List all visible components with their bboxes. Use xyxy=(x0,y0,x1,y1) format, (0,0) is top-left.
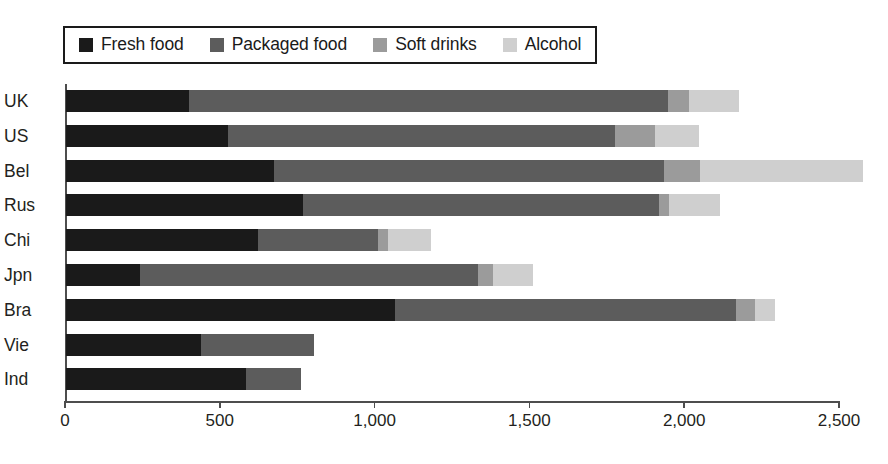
stacked-bar[interactable] xyxy=(66,264,533,286)
legend-item-label: Alcohol xyxy=(525,36,582,54)
legend-item-alcohol[interactable]: Alcohol xyxy=(503,36,582,54)
bar-row: Ind xyxy=(0,364,888,394)
bar-segment-packaged-food[interactable] xyxy=(140,264,478,286)
x-axis-tick-label: 1,000 xyxy=(353,411,396,431)
x-axis-tick-label: 0 xyxy=(60,411,69,431)
bar-segment-packaged-food[interactable] xyxy=(395,299,736,321)
stacked-bar[interactable] xyxy=(66,334,314,356)
bar-segment-packaged-food[interactable] xyxy=(189,90,668,112)
bar-row: Chi xyxy=(0,225,888,255)
legend-item-label: Packaged food xyxy=(232,36,347,54)
category-label-us: US xyxy=(4,125,74,146)
x-axis-tick-label: 2,500 xyxy=(818,411,861,431)
bar-segment-fresh-food[interactable] xyxy=(66,368,246,390)
stacked-bar[interactable] xyxy=(66,368,301,390)
chart-legend: Fresh foodPackaged foodSoft drinksAlcoho… xyxy=(63,26,597,64)
bar-segment-soft-drinks[interactable] xyxy=(736,299,755,321)
bar-row: Bra xyxy=(0,295,888,325)
stacked-bar[interactable] xyxy=(66,229,431,251)
bar-segment-alcohol[interactable] xyxy=(655,125,699,147)
legend-item-soft-drinks[interactable]: Soft drinks xyxy=(373,36,477,54)
bar-segment-alcohol[interactable] xyxy=(493,264,533,286)
bar-segment-soft-drinks[interactable] xyxy=(668,90,688,112)
bar-segment-fresh-food[interactable] xyxy=(66,334,201,356)
legend-item-packaged-food[interactable]: Packaged food xyxy=(210,36,347,54)
bar-segment-fresh-food[interactable] xyxy=(66,299,395,321)
bar-segment-alcohol[interactable] xyxy=(669,194,720,216)
bar-segment-alcohol[interactable] xyxy=(689,90,739,112)
category-label-bra: Bra xyxy=(4,299,74,320)
x-axis-tick xyxy=(64,401,66,408)
bar-segment-fresh-food[interactable] xyxy=(66,160,274,182)
bar-row: Bel xyxy=(0,156,888,186)
bar-segment-soft-drinks[interactable] xyxy=(378,229,388,251)
bar-segment-soft-drinks[interactable] xyxy=(664,160,700,182)
stacked-bar[interactable] xyxy=(66,299,775,321)
category-label-ind: Ind xyxy=(4,369,74,390)
bar-segment-packaged-food[interactable] xyxy=(246,368,301,390)
x-axis-tick-label: 2,000 xyxy=(663,411,706,431)
stacked-bar[interactable] xyxy=(66,90,739,112)
bar-segment-soft-drinks[interactable] xyxy=(659,194,669,216)
legend-swatch-fresh-food-icon xyxy=(79,38,93,52)
x-axis-tick xyxy=(683,401,685,408)
legend-item-fresh-food[interactable]: Fresh food xyxy=(79,36,184,54)
x-axis-tick-label: 500 xyxy=(206,411,234,431)
legend-swatch-alcohol-icon xyxy=(503,38,517,52)
chart-plot-area: 05001,0001,5002,0002,500 UKUSBelRusChiJp… xyxy=(0,84,888,414)
category-label-bel: Bel xyxy=(4,160,74,181)
bar-row: Jpn xyxy=(0,260,888,290)
bar-segment-fresh-food[interactable] xyxy=(66,194,303,216)
x-axis-tick-label: 1,500 xyxy=(508,411,551,431)
bar-segment-alcohol[interactable] xyxy=(700,160,863,182)
legend-item-label: Fresh food xyxy=(101,36,184,54)
category-label-vie: Vie xyxy=(4,334,74,355)
category-label-rus: Rus xyxy=(4,195,74,216)
bar-segment-soft-drinks[interactable] xyxy=(478,264,493,286)
bar-row: Rus xyxy=(0,190,888,220)
x-axis-tick xyxy=(219,401,221,408)
legend-swatch-soft-drinks-icon xyxy=(373,38,387,52)
legend-item-label: Soft drinks xyxy=(395,36,477,54)
bar-segment-alcohol[interactable] xyxy=(388,229,431,251)
stacked-bar[interactable] xyxy=(66,194,720,216)
bar-segment-packaged-food[interactable] xyxy=(303,194,658,216)
bar-segment-fresh-food[interactable] xyxy=(66,125,228,147)
x-axis-tick xyxy=(529,401,531,408)
bar-segment-packaged-food[interactable] xyxy=(201,334,314,356)
bar-segment-packaged-food[interactable] xyxy=(274,160,663,182)
category-label-uk: UK xyxy=(4,91,74,112)
x-axis-tick xyxy=(374,401,376,408)
stacked-bar[interactable] xyxy=(66,125,699,147)
bar-row: Vie xyxy=(0,330,888,360)
bar-row: UK xyxy=(0,86,888,116)
stacked-bar[interactable] xyxy=(66,160,863,182)
category-label-chi: Chi xyxy=(4,230,74,251)
bar-segment-fresh-food[interactable] xyxy=(66,90,189,112)
bar-segment-fresh-food[interactable] xyxy=(66,229,258,251)
bar-segment-packaged-food[interactable] xyxy=(258,229,378,251)
bar-segment-packaged-food[interactable] xyxy=(228,125,615,147)
legend-swatch-packaged-food-icon xyxy=(210,38,224,52)
bar-row: US xyxy=(0,121,888,151)
x-axis-line xyxy=(65,401,839,403)
bar-segment-alcohol[interactable] xyxy=(755,299,775,321)
bar-segment-soft-drinks[interactable] xyxy=(615,125,655,147)
bar-segment-fresh-food[interactable] xyxy=(66,264,140,286)
category-label-jpn: Jpn xyxy=(4,265,74,286)
x-axis-tick xyxy=(838,401,840,408)
